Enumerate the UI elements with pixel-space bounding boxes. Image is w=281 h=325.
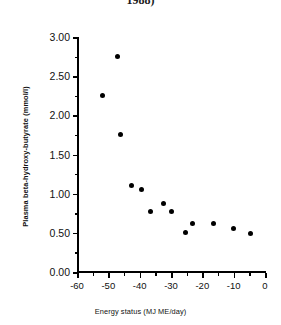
x-tick-label: -50 — [101, 280, 115, 291]
x-tick-minor — [124, 273, 125, 276]
y-tick-label: 2.50 — [50, 70, 70, 82]
data-point — [139, 187, 144, 192]
x-axis-title: Energy status (MJ ME/day) — [0, 307, 281, 316]
y-tick-minor — [75, 213, 78, 214]
y-tick-major — [73, 37, 78, 39]
data-point — [231, 226, 236, 231]
data-point — [118, 132, 123, 137]
x-tick-label: 0 — [262, 280, 267, 291]
y-tick-minor — [75, 174, 78, 175]
data-point — [129, 183, 134, 188]
x-tick-minor — [187, 273, 188, 276]
x-tick-major — [265, 273, 267, 278]
data-point — [115, 54, 120, 59]
data-point — [183, 230, 188, 235]
x-tick-minor — [155, 273, 156, 276]
x-tick-minor — [218, 273, 219, 276]
y-tick-label: 1.50 — [50, 149, 70, 161]
y-tick-minor — [75, 135, 78, 136]
caption-fragment: 1988) — [0, 0, 281, 7]
x-tick-major — [108, 273, 110, 278]
y-tick-label: 0.50 — [50, 227, 70, 239]
data-point — [169, 209, 174, 214]
y-tick-major — [73, 115, 78, 117]
data-point — [161, 201, 166, 206]
data-point — [100, 93, 105, 98]
x-tick-major — [234, 273, 236, 278]
x-tick-label: -20 — [195, 280, 209, 291]
figure-container: 1988) Plasma beta-hydroxy-butyrate (mmol… — [0, 0, 281, 325]
y-tick-minor — [75, 96, 78, 97]
y-tick-minor — [75, 57, 78, 58]
y-tick-label: 0.00 — [50, 266, 70, 278]
data-point — [190, 221, 195, 226]
y-tick-major — [73, 76, 78, 78]
x-tick-major — [140, 273, 142, 278]
plot-area: 0.000.501.001.502.002.503.00 -60-50-40-3… — [77, 37, 265, 272]
x-tick-major — [202, 273, 204, 278]
x-tick-label: -30 — [164, 280, 178, 291]
y-axis-title: Plasma beta-hydroxy-butyrate (mmol/l) — [21, 42, 30, 272]
x-tick-label: -10 — [227, 280, 241, 291]
y-tick-label: 1.00 — [50, 188, 70, 200]
y-tick-minor — [75, 252, 78, 253]
x-tick-minor — [93, 273, 94, 276]
y-tick-major — [73, 233, 78, 235]
data-point — [148, 209, 153, 214]
x-tick-major — [77, 273, 79, 278]
x-tick-label: -40 — [133, 280, 147, 291]
x-tick-major — [171, 273, 173, 278]
y-tick-major — [73, 155, 78, 157]
x-tick-minor — [249, 273, 250, 276]
data-point — [248, 231, 253, 236]
data-point — [211, 221, 216, 226]
y-tick-major — [73, 194, 78, 196]
x-tick-label: -60 — [70, 280, 84, 291]
y-tick-label: 2.00 — [50, 109, 70, 121]
y-tick-label: 3.00 — [50, 31, 70, 43]
